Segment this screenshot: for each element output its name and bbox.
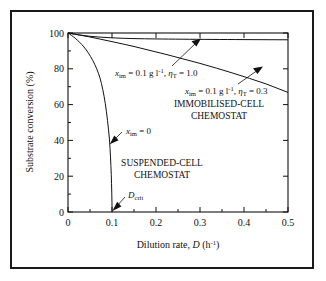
y-axis-ticks bbox=[68, 33, 73, 212]
y-tick-label-60: 60 bbox=[54, 99, 64, 110]
y-tick-label-40: 40 bbox=[54, 135, 64, 146]
curve-xim-zero bbox=[68, 33, 112, 212]
x-axis-title-unit-open: (h bbox=[200, 239, 211, 251]
annotation-eta-03-text: xim = 0.1 g l-1, ηT = 0.3 bbox=[184, 85, 268, 97]
leader-xim-zero bbox=[110, 132, 122, 144]
annotation-eta-1-text: xim = 0.1 g l-1, ηT = 1.0 bbox=[114, 67, 198, 79]
suspended-cell-line1: SUSPENDED-CELL bbox=[121, 158, 203, 168]
y-tick-label-100: 100 bbox=[49, 28, 64, 39]
x-axis-tick-labels: 0 0.1 0.2 0.3 0.4 0.5 bbox=[66, 217, 295, 228]
x-tick-label-05: 0.5 bbox=[282, 217, 295, 228]
x-axis-title-lead: Dilution rate, bbox=[137, 239, 193, 250]
y-tick-label-80: 80 bbox=[54, 63, 64, 74]
y-axis-title: Substrate conversion (%) bbox=[24, 71, 36, 172]
curve-eta-10 bbox=[68, 33, 288, 40]
annotation-xim-zero-text: xim = 0 bbox=[125, 126, 152, 137]
x-tick-label-02: 0.2 bbox=[150, 217, 163, 228]
annotation-eta-1-mid: = 0.1 g l bbox=[126, 68, 159, 78]
immobilised-cell-line2: CHEMOSTAT bbox=[191, 111, 247, 121]
x-axis-ticks bbox=[68, 207, 288, 212]
figure-root: 100 80 60 40 20 0 0 0.1 0.2 0.3 0.4 0.5 … bbox=[0, 0, 326, 281]
annotation-eta-03-end: = 0.3 bbox=[247, 86, 268, 96]
arrow-head-dcrit bbox=[112, 202, 121, 211]
annotation-eta-1-end: = 1.0 bbox=[177, 68, 198, 78]
annotation-eta-03-mid: = 0.1 g l bbox=[196, 86, 229, 96]
x-tick-label-0: 0 bbox=[66, 217, 71, 228]
chart-canvas: 100 80 60 40 20 0 0 0.1 0.2 0.3 0.4 0.5 … bbox=[0, 0, 326, 281]
y-tick-label-0: 0 bbox=[59, 207, 64, 218]
leader-line-eta-10 bbox=[172, 42, 197, 66]
annotation-xim-zero-end: = 0 bbox=[137, 126, 152, 136]
leader-eta-10 bbox=[172, 39, 201, 66]
annotation-dcrit-sub: crit bbox=[135, 194, 144, 201]
x-axis-title: Dilution rate, D (h-1) bbox=[137, 239, 220, 251]
suspended-cell-chemostat-label: SUSPENDED-CELL CHEMOSTAT bbox=[121, 158, 203, 180]
leader-dcrit bbox=[112, 197, 125, 211]
immobilised-cell-line1: IMMOBILISED-CELL bbox=[174, 99, 264, 109]
suspended-cell-line2: CHEMOSTAT bbox=[134, 170, 190, 180]
immobilised-cell-chemostat-label: IMMOBILISED-CELL CHEMOSTAT bbox=[174, 99, 264, 121]
leader-line-eta-03 bbox=[238, 70, 258, 84]
annotation-dcrit-text: Dcrit bbox=[127, 190, 143, 201]
y-axis-tick-labels: 100 80 60 40 20 0 bbox=[49, 28, 64, 218]
x-axis-title-unit-close: ) bbox=[216, 239, 219, 251]
x-tick-label-01: 0.1 bbox=[106, 217, 119, 228]
x-tick-label-03: 0.3 bbox=[194, 217, 207, 228]
y-axis-right-ticks bbox=[283, 33, 288, 212]
x-tick-label-04: 0.4 bbox=[238, 217, 251, 228]
y-tick-label-20: 20 bbox=[54, 171, 64, 182]
